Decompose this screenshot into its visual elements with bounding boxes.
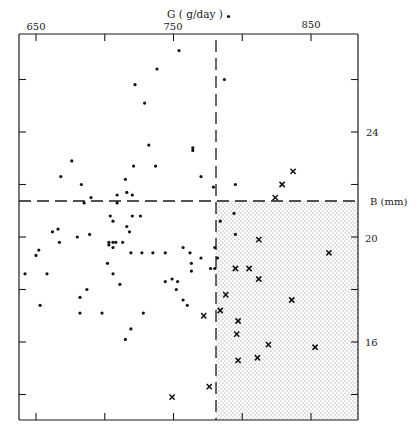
data-point-dot xyxy=(213,246,216,249)
data-point-dot xyxy=(133,83,136,86)
data-point-dot xyxy=(129,327,132,330)
data-point-dot xyxy=(23,272,26,275)
data-point-dot xyxy=(143,102,146,105)
data-point-dot xyxy=(186,304,189,307)
data-point-x xyxy=(170,395,175,400)
data-point-x xyxy=(291,169,296,174)
data-point-dot xyxy=(125,191,128,194)
x-tick-label-650: 650 xyxy=(26,21,45,32)
data-point-dot xyxy=(132,165,135,168)
data-point-dot xyxy=(58,241,61,244)
data-point-dot xyxy=(106,262,109,265)
data-point-dot xyxy=(147,144,150,147)
data-point-dot xyxy=(109,214,112,217)
data-point-dot xyxy=(199,175,202,178)
data-point-dot xyxy=(216,256,219,259)
data-point-dot xyxy=(129,251,132,254)
y-tick-label-20: 20 xyxy=(365,233,378,244)
data-point-dot xyxy=(182,298,185,301)
data-point-dot xyxy=(155,67,158,70)
shaded-region xyxy=(216,201,358,420)
data-point-dot xyxy=(124,338,127,341)
data-point-dot xyxy=(116,201,119,204)
data-point-dot xyxy=(56,228,59,231)
data-point-dot xyxy=(234,233,237,236)
data-point-dot xyxy=(37,249,40,252)
data-point-dot xyxy=(191,149,194,152)
data-point-dot xyxy=(190,262,193,265)
data-point-dot xyxy=(232,212,235,215)
x-tick-label-850: 850 xyxy=(301,19,320,30)
x-axis-title: G ( g/day ) xyxy=(167,8,223,20)
x-tick-label-750: 750 xyxy=(163,21,182,32)
data-point-dot xyxy=(89,196,92,199)
data-point-dot xyxy=(213,267,216,270)
data-point-dot xyxy=(140,251,143,254)
data-point-dot xyxy=(125,225,128,228)
data-point-dot xyxy=(142,312,145,315)
data-point-dot xyxy=(176,280,179,283)
data-point-dot xyxy=(76,235,79,238)
data-point-dot xyxy=(34,254,37,257)
data-point-dot xyxy=(114,241,117,244)
data-point-dot xyxy=(107,243,110,246)
data-point-dot xyxy=(85,288,88,291)
data-point-dot xyxy=(118,283,121,286)
scatter-chart: G ( g/day ) 650 750 850 24 20 16 B (mm) xyxy=(0,0,418,436)
data-point-dot xyxy=(154,165,157,168)
data-point-dot xyxy=(111,246,114,249)
data-point-x xyxy=(201,313,206,318)
data-point-dot xyxy=(139,214,142,217)
y-tick-label-24: 24 xyxy=(366,127,379,138)
data-point-dot xyxy=(212,186,215,189)
data-point-dot xyxy=(83,201,86,204)
data-point-dot xyxy=(45,272,48,275)
data-point-dot xyxy=(131,214,134,217)
data-point-dot xyxy=(70,159,73,162)
data-point-dot xyxy=(227,15,230,18)
data-point-dot xyxy=(171,277,174,280)
data-point-dot xyxy=(164,251,167,254)
data-point-dot xyxy=(188,251,191,254)
data-point-dot xyxy=(51,230,54,233)
data-point-dot xyxy=(80,183,83,186)
data-point-x xyxy=(207,384,212,389)
data-point-x xyxy=(273,195,278,200)
data-point-dot xyxy=(111,241,114,244)
y-tick-label-16: 16 xyxy=(365,337,378,348)
data-point-dot xyxy=(219,220,222,223)
data-point-dot xyxy=(128,230,131,233)
data-point-dot xyxy=(209,267,212,270)
data-point-dot xyxy=(116,193,119,196)
data-point-dot xyxy=(111,220,114,223)
data-point-dot xyxy=(100,312,103,315)
data-point-dot xyxy=(190,270,193,273)
data-point-dot xyxy=(39,304,42,307)
data-point-dot xyxy=(59,175,62,178)
data-point-dot xyxy=(199,256,202,259)
y-axis-title: B (mm) xyxy=(370,196,407,207)
data-point-dot xyxy=(175,288,178,291)
data-point-dot xyxy=(121,241,124,244)
data-point-dot xyxy=(124,178,127,181)
data-point-dot xyxy=(234,183,237,186)
data-point-dot xyxy=(151,251,154,254)
data-point-dot xyxy=(78,312,81,315)
data-point-dot xyxy=(78,296,81,299)
data-point-dot xyxy=(164,280,167,283)
data-point-dot xyxy=(182,246,185,249)
data-point-dot xyxy=(88,233,91,236)
data-point-dot xyxy=(177,49,180,52)
data-point-dot xyxy=(111,272,114,275)
data-point-dot xyxy=(131,193,134,196)
data-point-dot xyxy=(223,78,226,81)
data-point-x xyxy=(280,182,285,187)
